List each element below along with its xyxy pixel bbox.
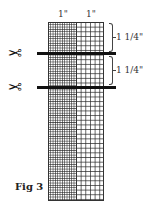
- column-label-left: 1": [58, 10, 68, 19]
- cut-line-1: [37, 52, 116, 55]
- scissors-icon: ✂: [8, 45, 22, 62]
- figure-caption: Fig 3: [15, 182, 43, 192]
- dimension-label-1: 1 1/4": [116, 33, 143, 42]
- dimension-label-2: 1 1/4": [116, 66, 143, 75]
- cut-line-2: [37, 86, 116, 89]
- column-label-right: 1": [86, 10, 96, 19]
- grid-divider: [76, 22, 77, 201]
- scissors-icon: ✂: [8, 79, 22, 96]
